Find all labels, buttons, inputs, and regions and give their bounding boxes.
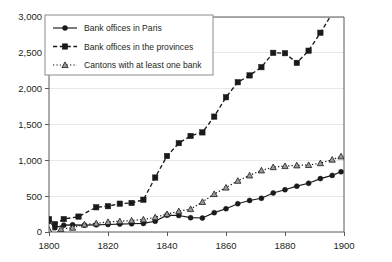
xtick-label: 1900 xyxy=(333,240,354,251)
data-point-square xyxy=(223,95,228,100)
xtick-label: 1800 xyxy=(38,240,59,251)
ytick-label: 1,500 xyxy=(18,119,42,130)
data-point-square xyxy=(94,205,99,210)
ytick-label: 0 xyxy=(37,226,42,237)
data-point-circle xyxy=(330,173,335,178)
data-point-triangle xyxy=(199,199,205,205)
data-point-square xyxy=(271,50,276,55)
data-point-triangle xyxy=(247,172,253,178)
data-point-circle xyxy=(224,206,229,211)
data-point-square xyxy=(176,140,181,145)
line-chart: 05001,0001,5002,0002,5003,00018001820184… xyxy=(0,0,392,262)
data-point-square xyxy=(259,64,264,69)
data-point-triangle xyxy=(338,153,344,159)
data-point-square xyxy=(247,73,252,78)
data-point-circle xyxy=(200,216,205,221)
xtick-label: 1820 xyxy=(97,240,118,251)
data-point-square xyxy=(141,197,146,202)
data-point-square xyxy=(330,11,335,16)
series-cantons xyxy=(46,153,344,232)
data-point-square xyxy=(294,60,299,65)
data-point-circle xyxy=(247,198,252,203)
data-point-circle xyxy=(259,196,264,201)
data-point-triangle xyxy=(117,218,123,224)
data-point-circle xyxy=(63,26,68,31)
data-point-triangle xyxy=(329,157,335,163)
data-point-square xyxy=(117,201,122,206)
legend-label: Bank offices in the provinces xyxy=(84,42,193,52)
legend-label: Bank offices in Paris xyxy=(84,23,162,33)
legend: Bank offices in ParisBank offices in the… xyxy=(45,15,213,75)
data-point-square xyxy=(129,200,134,205)
data-point-square xyxy=(188,133,193,138)
xtick-label: 1860 xyxy=(215,240,236,251)
data-point-triangle xyxy=(211,191,217,197)
ytick-label: 500 xyxy=(26,191,42,202)
data-point-triangle xyxy=(282,163,288,169)
data-point-circle xyxy=(271,190,276,195)
data-point-square xyxy=(105,204,110,209)
data-point-square xyxy=(52,221,57,226)
series-paris xyxy=(47,169,344,230)
data-point-triangle xyxy=(93,220,99,226)
ytick-label: 3,000 xyxy=(18,11,42,22)
data-point-circle xyxy=(283,187,288,192)
data-point-circle xyxy=(212,210,217,215)
data-point-circle xyxy=(294,184,299,189)
data-point-circle xyxy=(188,215,193,220)
xtick-label: 1840 xyxy=(156,240,177,251)
data-point-square xyxy=(76,214,81,219)
data-point-square xyxy=(200,130,205,135)
data-point-square xyxy=(164,153,169,158)
data-point-square xyxy=(282,50,287,55)
data-point-square xyxy=(61,216,66,221)
series-line xyxy=(49,172,341,228)
data-point-square xyxy=(306,48,311,53)
data-point-square xyxy=(62,44,67,49)
data-point-circle xyxy=(318,176,323,181)
ytick-label: 1,000 xyxy=(18,155,42,166)
data-point-triangle xyxy=(306,162,312,168)
data-point-circle xyxy=(235,201,240,206)
data-point-square xyxy=(153,175,158,180)
data-point-triangle xyxy=(235,178,241,184)
data-point-square xyxy=(318,30,323,35)
data-point-square xyxy=(212,114,217,119)
data-point-circle xyxy=(61,223,66,228)
ytick-label: 2,000 xyxy=(18,83,42,94)
data-point-triangle xyxy=(223,184,229,190)
data-point-triangle xyxy=(188,206,194,212)
chart-container: 05001,0001,5002,0002,5003,00018001820184… xyxy=(0,0,392,262)
legend-label: Cantons with at least one bank xyxy=(84,60,202,70)
data-point-circle xyxy=(339,169,344,174)
xtick-label: 1880 xyxy=(274,240,295,251)
data-point-triangle xyxy=(258,167,264,173)
ytick-label: 2,500 xyxy=(18,47,42,58)
data-point-square xyxy=(46,216,51,221)
data-point-square xyxy=(235,80,240,85)
data-point-circle xyxy=(306,181,311,186)
